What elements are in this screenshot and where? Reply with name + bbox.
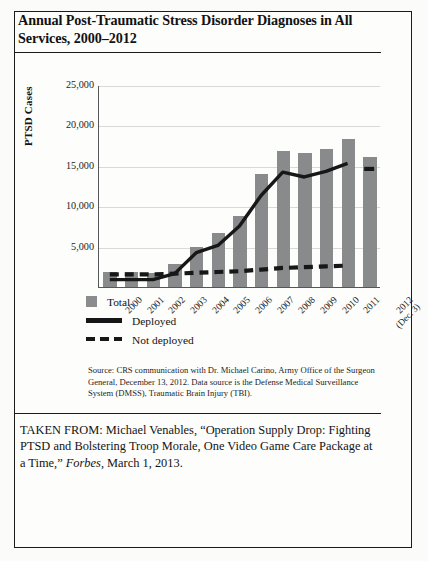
legend-item: Total — [86, 292, 336, 311]
taken-from-note: TAKEN FROM: Michael Venables, “Operation… — [20, 422, 378, 471]
legend-swatch-square-gray-icon — [86, 296, 97, 307]
x-axis-tick-label: 2012(Dec. 3) — [386, 294, 422, 330]
legend-label: Total — [107, 296, 130, 308]
figure-title-block: Annual Post-Traumatic Stress Disorder Di… — [18, 12, 374, 47]
taken-from-suffix: , March 1, 2013. — [101, 456, 183, 470]
taken-from-publication: Forbes — [66, 456, 101, 470]
title-divider — [15, 52, 381, 53]
chart-legend: TotalDeployedNot deployed — [86, 292, 336, 349]
bottom-divider — [15, 413, 381, 414]
legend-item: Deployed — [86, 311, 336, 330]
page-root: Annual Post-Traumatic Stress Disorder Di… — [0, 0, 428, 561]
page-title: Annual Post-Traumatic Stress Disorder Di… — [18, 12, 374, 47]
source-note: Source: CRS communication with Dr. Micha… — [88, 365, 384, 400]
x-axis-tick-label: 2011 — [361, 294, 382, 315]
legend-label: Deployed — [132, 315, 176, 327]
legend-swatch-solid-line-icon — [86, 318, 122, 322]
x-axis-tick-label: 2010 — [339, 294, 360, 315]
legend-label: Not deployed — [132, 334, 194, 346]
legend-swatch-dashed-line-icon — [86, 337, 122, 341]
legend-item: Not deployed — [86, 330, 336, 349]
